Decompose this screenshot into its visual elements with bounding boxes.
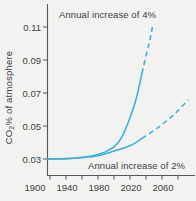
y-tick-label-0.05: 0.05 bbox=[19, 121, 41, 132]
annotation-4-percent: Annual increase of 4% bbox=[59, 9, 156, 20]
co2-growth-chart: Annual increase of 4% Annual increase of… bbox=[0, 0, 196, 201]
y-tick-label-0.09: 0.09 bbox=[19, 55, 41, 66]
y-axis-title-subscript: 2 bbox=[8, 126, 15, 130]
annotation-2-percent: Annual increase of 2% bbox=[88, 160, 185, 171]
x-tick-label-1980: 1980 bbox=[85, 182, 113, 193]
y-tick-label-0.07: 0.07 bbox=[19, 88, 41, 99]
y-tick-label-0.11: 0.11 bbox=[19, 22, 41, 33]
y-axis-title-suffix: % of atmosphere bbox=[3, 51, 14, 126]
y-axis-title: CO2% of atmosphere bbox=[3, 33, 16, 163]
x-tick-label-2060: 2060 bbox=[149, 182, 177, 193]
series-solid-1 bbox=[48, 138, 142, 159]
y-tick-label-0.03: 0.03 bbox=[19, 154, 41, 165]
y-axis-title-prefix: CO bbox=[3, 130, 14, 145]
series-dashed-1 bbox=[142, 100, 188, 139]
series-dashed-0 bbox=[142, 27, 152, 73]
x-tick-label-1900: 1900 bbox=[21, 182, 49, 193]
x-tick-label-2020: 2020 bbox=[117, 182, 145, 193]
x-tick-label-1940: 1940 bbox=[53, 182, 81, 193]
